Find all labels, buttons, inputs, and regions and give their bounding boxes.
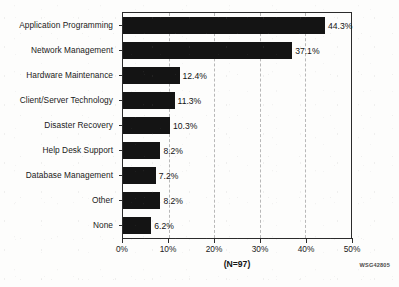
x-axis-tick [260, 238, 261, 243]
bar-series: 44.3%37.1%12.4%11.3%10.3%8.2%7.2%8.2%6.2… [123, 13, 351, 238]
x-axis-tick [122, 238, 123, 243]
bar: 44.3% [123, 17, 325, 34]
bar-row: 8.2% [123, 138, 351, 163]
figure-code: WSG42805 [359, 262, 390, 268]
bar-row: 6.2% [123, 213, 351, 238]
bar-row: 10.3% [123, 113, 351, 138]
bar-chart-figure: Application Programming Network Manageme… [0, 0, 399, 287]
x-axis-tick-label: 30% [252, 244, 269, 254]
bar-value-label: 37.1% [295, 46, 319, 56]
bar: 8.2% [123, 142, 160, 159]
category-label: Application Programming [0, 12, 118, 37]
bar-value-label: 12.4% [183, 71, 207, 81]
x-axis-tick-label: 0% [116, 244, 128, 254]
category-label: Hardware Maintenance [0, 62, 118, 87]
bar-row: 8.2% [123, 188, 351, 213]
x-axis-tick [306, 238, 307, 243]
x-axis-tick [168, 238, 169, 243]
bar-value-label: 6.2% [154, 221, 174, 231]
bar: 8.2% [123, 192, 160, 209]
bar: 6.2% [123, 217, 151, 234]
category-label: Database Management [0, 163, 118, 188]
sample-size-caption: (N=97) [122, 259, 352, 269]
x-axis-tick-label: 50% [344, 244, 361, 254]
bar-row: 12.4% [123, 63, 351, 88]
bar: 37.1% [123, 42, 292, 59]
bar: 10.3% [123, 117, 170, 134]
bar-row: 37.1% [123, 38, 351, 63]
plot-area: 44.3%37.1%12.4%11.3%10.3%8.2%7.2%8.2%6.2… [122, 12, 352, 238]
bar-value-label: 8.2% [163, 196, 183, 206]
bar-value-label: 44.3% [328, 21, 352, 31]
x-axis-tick [214, 238, 215, 243]
category-label: None [0, 213, 118, 238]
bar-row: 7.2% [123, 163, 351, 188]
category-label: Client/Server Technology [0, 87, 118, 112]
category-label: Disaster Recovery [0, 112, 118, 137]
x-axis-tick [352, 238, 353, 243]
bar-value-label: 10.3% [173, 121, 197, 131]
bar: 12.4% [123, 67, 180, 84]
bar-row: 11.3% [123, 88, 351, 113]
bar-row: 44.3% [123, 13, 351, 38]
bar: 7.2% [123, 167, 156, 184]
category-label: Other [0, 188, 118, 213]
bar-value-label: 7.2% [159, 171, 179, 181]
x-axis-tick-label: 20% [206, 244, 223, 254]
bar-value-label: 11.3% [178, 96, 202, 106]
x-axis-tick-label: 40% [298, 244, 315, 254]
category-label: Network Management [0, 37, 118, 62]
category-axis-labels: Application Programming Network Manageme… [0, 12, 118, 238]
bar-value-label: 8.2% [163, 146, 183, 156]
category-label: Help Desk Support [0, 138, 118, 163]
x-axis-tick-labels: 0%10%20%30%40%50% [122, 244, 352, 256]
x-axis-tick-label: 10% [160, 244, 177, 254]
bar: 11.3% [123, 92, 175, 109]
